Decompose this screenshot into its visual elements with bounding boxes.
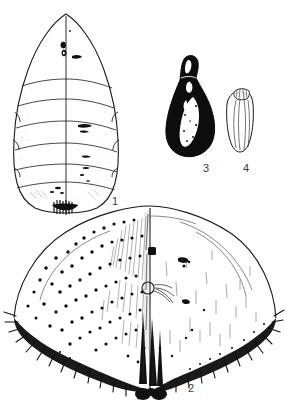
figure-1-label: 1 [112,195,118,207]
figure-3-label: 3 [203,162,209,174]
egg-operculum-cap [234,89,249,100]
figure-2-label: 2 [188,382,194,394]
illustration-plate: 1 3 [0,0,287,417]
figure-4-label: 4 [243,162,249,174]
